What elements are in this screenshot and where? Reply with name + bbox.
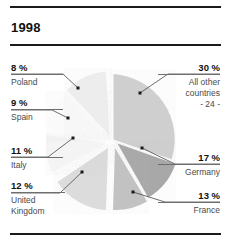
- label-france-name: France: [158, 205, 220, 216]
- label-germany-name: Germany: [158, 167, 220, 178]
- label-poland-pct: 8 %: [11, 62, 63, 73]
- label-uk-rule: [11, 192, 65, 193]
- label-germany-rule: [158, 164, 220, 165]
- label-poland-rule: [11, 74, 63, 75]
- label-poland-name: Poland: [11, 77, 63, 88]
- label-spain-pct: 9 %: [11, 97, 63, 108]
- label-france-pct: 13 %: [158, 190, 220, 201]
- label-poland: 8 % Poland: [11, 62, 63, 88]
- top-divider: [10, 6, 221, 8]
- pie-chart-figure: 1998: [0, 0, 231, 249]
- label-spain-name: Spain: [11, 112, 63, 123]
- label-italy: 11 % Italy: [11, 145, 63, 171]
- label-other-name: All other countries - 24 -: [158, 77, 220, 110]
- label-italy-pct: 11 %: [11, 145, 63, 156]
- label-france: 13 % France: [158, 190, 220, 216]
- label-germany-pct: 17 %: [158, 152, 220, 163]
- label-germany: 17 % Germany: [158, 152, 220, 178]
- label-france-rule: [158, 202, 220, 203]
- label-spain: 9 % Spain: [11, 97, 63, 123]
- label-italy-name: Italy: [11, 160, 63, 171]
- pie-svg: [46, 58, 176, 226]
- label-united-kingdom: 12 % United Kingdom: [11, 180, 65, 217]
- label-spain-rule: [11, 109, 63, 110]
- label-italy-rule: [11, 157, 63, 158]
- bottom-divider: [10, 233, 221, 235]
- label-all-other-countries: 30 % All other countries - 24 -: [158, 62, 220, 110]
- label-uk-pct: 12 %: [11, 180, 65, 191]
- label-other-rule: [158, 74, 220, 75]
- label-other-pct: 30 %: [158, 62, 220, 73]
- title-divider: [10, 44, 221, 46]
- label-uk-name: United Kingdom: [11, 195, 65, 217]
- pie-chart: [46, 58, 176, 226]
- page-title: 1998: [11, 20, 41, 35]
